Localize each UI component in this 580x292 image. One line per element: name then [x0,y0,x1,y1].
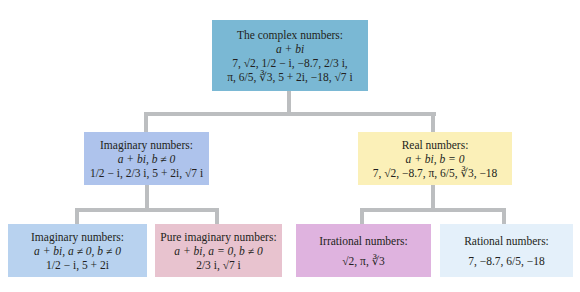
connector-level2-horizontal [144,112,436,116]
connector-to-pure-imaginary [215,208,219,224]
imaginary-sub-form: a + bi, a ≠ 0, b ≠ 0 [34,244,121,258]
real-numbers-examples: 7, √2, −8.7, π, 6/5, ∛3, −18 [373,166,498,180]
irrational-numbers-box: Irrational numbers: √2, π, ∛3 [296,224,431,277]
pure-imaginary-box: Pure imaginary numbers: a + bi, a = 0, b… [155,224,282,277]
real-numbers-form: a + bi, b = 0 [406,152,465,166]
pure-imaginary-form: a + bi, a = 0, b ≠ 0 [174,244,262,258]
connector-imaginary-horizontal [75,208,219,212]
imaginary-sub-box: Imaginary numbers: a + bi, a ≠ 0, b ≠ 0 … [8,224,147,277]
imaginary-numbers-title: Imaginary numbers: [100,138,193,152]
complex-numbers-examples-2: π, 6/5, ∛3, 5 + 2i, −18, √7 i [227,70,352,84]
connector-to-rational [502,208,506,224]
connector-to-imaginary-sub [75,208,79,224]
pure-imaginary-title: Pure imaginary numbers: [160,230,276,244]
imaginary-numbers-examples: 1/2 − i, 2/3 i, 5 + 2i, √7 i [90,166,203,180]
connector-real-horizontal [360,208,506,212]
imaginary-sub-examples: 1/2 − i, 5 + 2i [46,258,109,272]
irrational-numbers-title: Irrational numbers: [319,234,407,248]
rational-numbers-examples: 7, −8.7, 6/5, −18 [468,254,545,268]
connector-to-real [431,112,435,133]
real-numbers-box: Real numbers: a + bi, b = 0 7, √2, −8.7,… [358,132,512,185]
imaginary-numbers-form: a + bi, b ≠ 0 [118,152,176,166]
connector-to-irrational [360,208,364,224]
rational-numbers-box: Rational numbers: 7, −8.7, 6/5, −18 [440,224,573,277]
pure-imaginary-examples: 2/3 i, √7 i [196,258,241,272]
rational-numbers-title: Rational numbers: [464,234,549,248]
complex-numbers-form: a + bi [276,42,304,56]
connector-imaginary-down [145,185,149,210]
complex-numbers-box: The complex numbers: a + bi 7, √2, 1/2 −… [212,20,368,91]
connector-to-imaginary [144,112,148,133]
real-numbers-title: Real numbers: [402,138,469,152]
connector-real-down [431,185,435,210]
irrational-numbers-examples: √2, π, ∛3 [342,254,384,268]
complex-numbers-examples-1: 7, √2, 1/2 − i, −8.7, 2/3 i, [232,56,347,70]
imaginary-sub-title: Imaginary numbers: [31,230,124,244]
connector-root-down [287,91,291,114]
imaginary-numbers-box: Imaginary numbers: a + bi, b ≠ 0 1/2 − i… [84,132,209,185]
complex-numbers-title: The complex numbers: [237,28,343,42]
